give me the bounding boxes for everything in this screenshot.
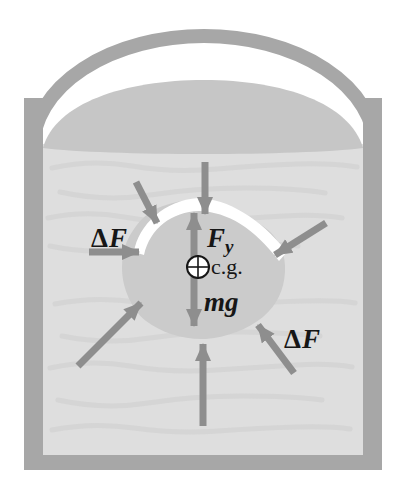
label-delta-f-right: ΔF (284, 324, 320, 354)
delta-glyph: Δ (91, 223, 108, 253)
force-glyph: F (301, 324, 320, 354)
container-bottom (24, 455, 382, 470)
label-delta-f-left: ΔF (91, 223, 127, 253)
buoyancy-force-diagram: ΔF Fy c.g. mg ΔF (0, 0, 408, 498)
container-right-wall (363, 98, 382, 470)
force-glyph: F (108, 223, 127, 253)
label-weight: mg (204, 287, 239, 317)
buoyancy-symbol: F (206, 223, 225, 253)
delta-glyph: Δ (284, 324, 301, 354)
cg-marker-icon (186, 255, 210, 279)
container-left-wall (24, 98, 43, 470)
label-center-of-gravity: c.g. (211, 254, 243, 279)
